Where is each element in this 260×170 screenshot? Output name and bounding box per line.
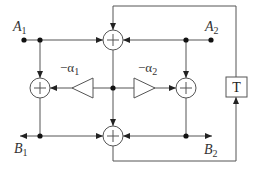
adder-right — [176, 78, 196, 98]
dot-a2-input — [208, 37, 213, 42]
lattice-diagram: T A1 A2 B1 B2 −α1 −α2 — [0, 0, 260, 170]
dot-b1-branch — [37, 133, 42, 138]
label-b2: B2 — [204, 142, 218, 159]
arrow-into-top-adder-right — [123, 37, 130, 43]
dot-a1-branch — [37, 37, 42, 42]
arrow-into-top-adder-top — [110, 23, 116, 30]
dot-b2-branch — [183, 133, 188, 138]
label-alpha2: −α2 — [138, 60, 157, 77]
arrow-b2-output — [205, 133, 212, 139]
delay-label: T — [232, 80, 241, 95]
arrow-into-delay — [233, 97, 239, 104]
label-b1: B1 — [14, 141, 28, 158]
arrow-b1-output — [20, 133, 27, 139]
label-a2: A2 — [204, 19, 219, 36]
arrow-into-bottom-adder-top — [110, 119, 116, 126]
wire-delay-to-top-adder — [113, 6, 236, 77]
arrow-into-bottom-adder-right — [123, 133, 130, 139]
adder-left — [30, 78, 50, 98]
arrow-into-bottom-adder-left — [96, 133, 103, 139]
dot-a1-input — [21, 37, 26, 42]
dot-a2-branch — [183, 37, 188, 42]
arrow-into-right-adder-left — [169, 85, 176, 91]
label-a1: A1 — [12, 19, 27, 36]
arrow-into-right-adder-top — [183, 71, 189, 78]
adder-top — [103, 30, 123, 50]
label-alpha1: −α1 — [60, 60, 79, 77]
arrow-into-top-adder-left — [96, 37, 103, 43]
dot-center-branch — [110, 85, 115, 90]
arrow-into-left-adder-top — [37, 71, 43, 78]
adder-bottom — [103, 126, 123, 146]
multiplier-alpha1-triangle — [72, 78, 93, 98]
arrow-into-left-adder-right — [50, 85, 57, 91]
multiplier-alpha2-triangle — [134, 78, 155, 98]
